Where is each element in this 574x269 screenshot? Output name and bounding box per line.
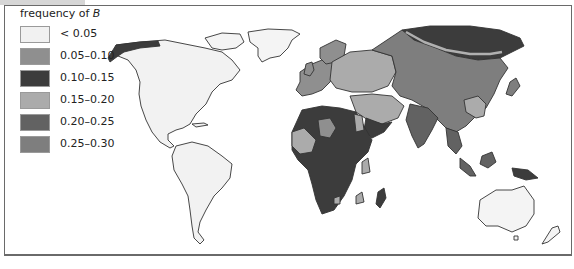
- world-map: [0, 0, 574, 269]
- egypt-patch: [354, 114, 364, 132]
- north-america: [116, 40, 240, 148]
- tasmania: [514, 236, 518, 240]
- legend-title-variable: B: [93, 7, 101, 20]
- south-africa-patch2: [356, 192, 364, 204]
- legend-label: 0.15–0.20: [60, 93, 114, 106]
- east-africa-patch: [362, 158, 370, 174]
- legend-swatch: [20, 136, 50, 153]
- legend-swatch: [20, 70, 50, 87]
- australia: [478, 186, 534, 232]
- legend-label: 0.05–0.10: [60, 49, 114, 62]
- japan: [506, 78, 520, 96]
- legend-swatch: [20, 114, 50, 131]
- sumatra: [460, 158, 476, 176]
- legend-label: 0.20–0.25: [60, 115, 114, 128]
- southeast-asia: [446, 128, 462, 154]
- borneo: [480, 152, 496, 168]
- caribbean: [192, 123, 208, 127]
- legend-label: 0.10–0.15: [60, 71, 114, 84]
- legend-label: 0.25–0.30: [60, 137, 114, 150]
- madagascar: [376, 188, 386, 208]
- legend-swatch: [20, 48, 50, 65]
- legend-swatch: [20, 26, 50, 43]
- legend-title: frequency of B: [20, 7, 100, 20]
- south-america: [172, 142, 232, 244]
- new-zealand: [542, 226, 560, 244]
- new-guinea: [512, 168, 538, 180]
- legend-label: < 0.05: [60, 27, 97, 40]
- legend-swatch: [20, 92, 50, 109]
- arctic-islands: [205, 33, 244, 50]
- legend-title-text: frequency of: [20, 7, 93, 20]
- greenland: [248, 29, 300, 62]
